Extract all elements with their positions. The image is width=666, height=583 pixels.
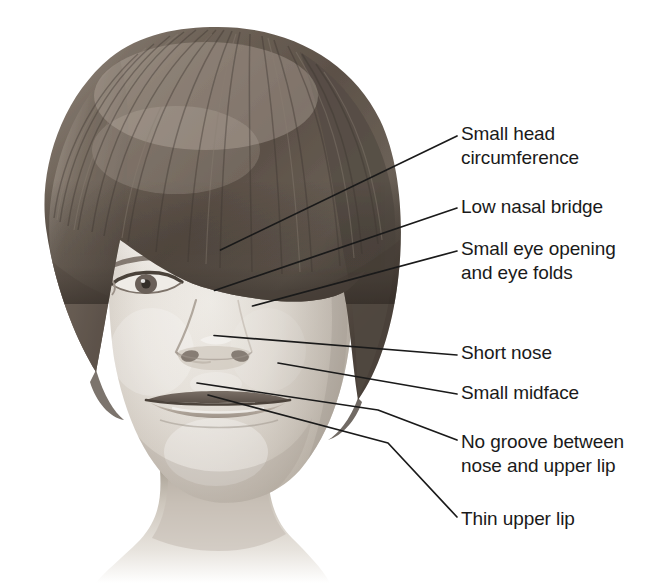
label-small-eye-opening-and-eye-folds: Small eye opening and eye folds bbox=[461, 237, 616, 285]
leader-short-nose bbox=[214, 336, 457, 356]
label-thin-upper-lip: Thin upper lip bbox=[461, 507, 575, 531]
facial-features-diagram: Small head circumference Low nasal bridg… bbox=[0, 0, 666, 583]
leader-lines bbox=[0, 0, 666, 583]
leader-low-nasal-bridge bbox=[215, 208, 458, 291]
label-short-nose: Short nose bbox=[461, 341, 552, 365]
label-low-nasal-bridge: Low nasal bridge bbox=[461, 195, 603, 219]
leader-small-head-circumference bbox=[221, 136, 458, 250]
label-small-head-circumference: Small head circumference bbox=[461, 122, 579, 170]
label-small-midface: Small midface bbox=[461, 381, 579, 405]
leader-thin-upper-lip bbox=[208, 395, 457, 517]
leader-small-midface bbox=[278, 363, 457, 394]
leader-small-eye-opening-and-eye-folds bbox=[253, 251, 458, 306]
label-no-groove-between-nose-and-upper-lip: No groove between nose and upper lip bbox=[461, 430, 624, 478]
leader-no-groove-between-nose-and-upper-lip bbox=[197, 383, 457, 440]
